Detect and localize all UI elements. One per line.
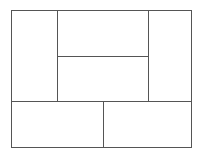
divider-main-horizontal <box>11 101 192 102</box>
divider-center-horizontal <box>57 56 148 57</box>
divider-right-vertical <box>148 10 149 101</box>
outer-frame <box>11 10 192 148</box>
divider-bottom-vertical <box>103 101 104 148</box>
